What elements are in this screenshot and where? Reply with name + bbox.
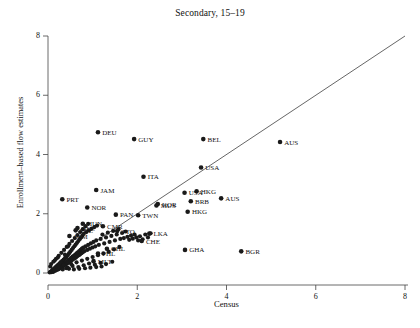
point-label-pan: PAN <box>120 211 133 219</box>
data-point-guy <box>132 137 137 142</box>
data-point <box>102 241 106 245</box>
data-point-jam <box>94 188 99 193</box>
data-point <box>72 267 76 271</box>
point-label-che: CHE <box>146 238 160 246</box>
point-label-twn: TWN <box>142 212 158 220</box>
data-point <box>53 258 57 262</box>
point-label-brb: BRB <box>195 198 209 206</box>
data-point <box>106 231 110 235</box>
data-point-phl <box>96 251 101 256</box>
x-tick-label: 2 <box>127 292 147 301</box>
unlabeled-data-points <box>48 222 153 275</box>
data-point-bel <box>201 137 206 142</box>
point-label-gha: GHA <box>189 246 204 254</box>
data-point <box>85 257 89 261</box>
data-point-che <box>139 239 144 244</box>
data-point-mus <box>154 203 159 208</box>
data-point <box>88 266 92 270</box>
data-point-ita <box>141 174 146 179</box>
x-tick-label: 0 <box>38 292 58 301</box>
chart-figure: Secondary, 15–19 DEUGUYBELAUSUSAITAJAMUS… <box>0 0 420 328</box>
data-point-brb <box>189 199 194 204</box>
data-point <box>100 232 104 236</box>
point-label-deu: DEU <box>102 129 116 137</box>
data-point <box>91 255 95 259</box>
point-label-aus: AUS <box>284 139 298 147</box>
data-point <box>94 238 98 242</box>
data-point <box>113 238 117 242</box>
point-label-bel: BEL <box>207 136 220 144</box>
point-label-guy: GUY <box>138 136 153 144</box>
data-point-aus <box>219 196 224 201</box>
data-point <box>56 255 60 259</box>
data-point <box>97 243 101 247</box>
point-label-prt: PRT <box>66 196 79 204</box>
data-point <box>74 260 78 264</box>
data-point-nor <box>85 205 90 210</box>
data-point-aus <box>278 140 283 145</box>
point-label-hkg: HKG <box>201 188 216 196</box>
data-point <box>93 244 97 248</box>
point-label-nor: NOR <box>91 204 106 212</box>
data-point-mlt <box>91 259 96 264</box>
data-point-deu <box>96 130 101 135</box>
data-point <box>58 260 62 264</box>
data-point-prt <box>60 197 65 202</box>
data-point <box>66 244 70 248</box>
scatter-plot-canvas: DEUGUYBELAUSUSAITAJAMUSAHKGPRTAUSBRBKORM… <box>0 0 420 328</box>
data-point-hkg <box>185 209 190 214</box>
data-point <box>63 253 67 257</box>
y-tick-label: 4 <box>28 150 40 159</box>
x-tick-label: 4 <box>217 292 237 301</box>
x-axis-ticks <box>48 285 405 290</box>
point-label-tto: TTO <box>121 228 134 236</box>
x-tick-label: 6 <box>306 292 326 301</box>
data-point-jam <box>67 234 72 239</box>
y-tick-label: 2 <box>28 209 40 218</box>
data-point <box>61 267 65 271</box>
point-label-aus: AUS <box>225 195 239 203</box>
data-point-bgr <box>239 249 244 254</box>
point-label-usa: USA <box>205 164 219 172</box>
y-axis-ticks <box>43 36 48 273</box>
data-point <box>118 237 122 241</box>
data-point <box>80 258 84 262</box>
y-tick-label: 8 <box>28 31 40 40</box>
data-point-pan <box>114 212 119 217</box>
data-point <box>122 236 126 240</box>
point-label-jam: JAM <box>74 233 89 241</box>
data-point <box>127 238 131 242</box>
point-label-jam: JAM <box>100 187 115 195</box>
x-tick-label: 8 <box>395 292 415 301</box>
data-point <box>109 234 113 238</box>
data-point-usa <box>182 190 187 195</box>
data-point <box>67 267 71 271</box>
point-label-ita: ITA <box>148 173 159 181</box>
data-point-lka <box>147 231 152 236</box>
point-label-bgr: BGR <box>245 248 260 256</box>
data-point <box>83 266 87 270</box>
data-point <box>104 235 108 239</box>
data-point-twn <box>136 213 141 218</box>
y-axis-label: Enrollment–based flow estimates <box>16 38 25 268</box>
point-label-hkg: HKG <box>192 208 207 216</box>
data-point <box>131 237 135 241</box>
y-tick-label: 6 <box>28 90 40 99</box>
data-point-gha <box>183 248 188 253</box>
data-point-labels: DEUGUYBELAUSUSAITAJAMUSAHKGPRTAUSBRBKORM… <box>66 129 298 266</box>
point-label-mlt: MLT <box>98 258 113 266</box>
data-point <box>99 237 103 241</box>
data-point <box>77 267 81 271</box>
point-label-mus: MUS <box>161 202 176 210</box>
y-tick-label: 0 <box>28 268 40 277</box>
data-point <box>107 240 111 244</box>
data-point-usa <box>199 165 204 170</box>
data-point <box>87 261 91 265</box>
